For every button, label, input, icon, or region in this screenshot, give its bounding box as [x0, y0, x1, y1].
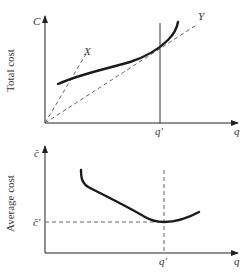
bottom-y-axis-label: Average cost — [4, 175, 16, 232]
total-cost-panel: C q q′ X Y Total cost — [4, 10, 240, 137]
top-y-symbol: C — [33, 15, 41, 27]
average-cost-curve — [81, 170, 199, 222]
top-x-symbol: q — [234, 125, 240, 137]
cost-diagram: C q q′ X Y Total cost c̄ c̄′ q q′ Averag… — [0, 0, 250, 280]
ray-x-label: X — [83, 45, 92, 57]
bottom-x-symbol: q — [234, 255, 240, 267]
bottom-q-prime-label: q′ — [159, 255, 168, 267]
top-y-axis-label: Total cost — [4, 49, 16, 92]
bottom-y-symbol: c̄ — [34, 147, 39, 159]
c-prime-label: c̄′ — [33, 216, 41, 228]
average-cost-panel: c̄ c̄′ q q′ Average cost — [4, 146, 240, 267]
ray-x — [45, 54, 86, 123]
ray-y-label: Y — [198, 10, 206, 22]
top-q-prime-label: q′ — [155, 125, 164, 137]
ray-y — [45, 24, 198, 123]
